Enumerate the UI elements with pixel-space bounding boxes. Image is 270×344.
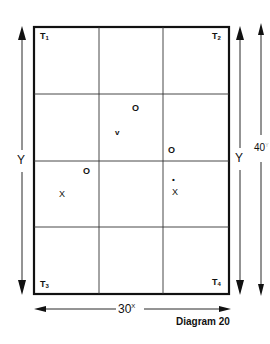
left-height-label: Y (17, 154, 25, 166)
right-outer-height-label: 40Y (254, 143, 268, 153)
corner-label-t3: T3 (40, 280, 49, 289)
point-x-2: X (172, 188, 178, 197)
point-o-1: O (132, 104, 139, 113)
corner-label-t4: T4 (212, 278, 221, 287)
right-inner-height-label: Y (235, 152, 243, 164)
right-outer-height-arrow (258, 23, 264, 296)
corner-label-t2: T2 (212, 32, 221, 41)
point-dot: • (172, 176, 175, 184)
grid-lines (34, 27, 229, 294)
corner-label-t1: T1 (40, 32, 49, 41)
point-o-2: O (168, 146, 175, 155)
layout-rectangle (34, 27, 229, 294)
diagram-canvas (0, 0, 270, 344)
point-v: v (115, 129, 119, 137)
bottom-width-label: 30X (118, 303, 135, 315)
point-x-1: X (59, 190, 65, 199)
diagram-caption: Diagram 20 (176, 317, 230, 327)
point-o-3: O (83, 167, 90, 176)
